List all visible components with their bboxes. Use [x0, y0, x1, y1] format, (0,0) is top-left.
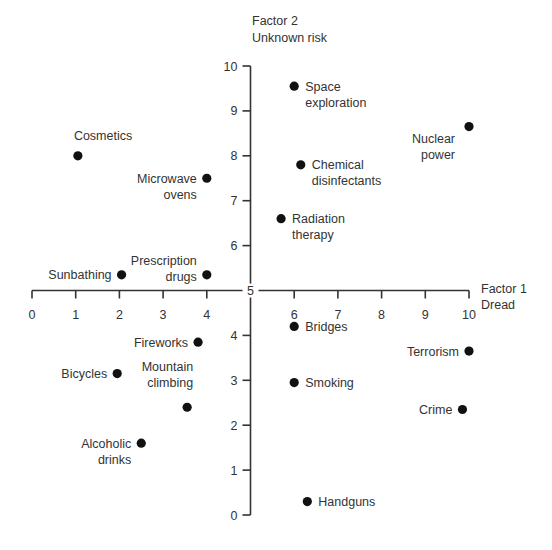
data-point: Crime: [419, 403, 467, 417]
data-point-label: Microwave: [137, 172, 197, 186]
data-point-marker: [303, 497, 312, 506]
data-point: Prescriptiondrugs: [131, 254, 212, 284]
data-point-label: Smoking: [305, 376, 354, 390]
data-point: Fireworks: [134, 336, 203, 350]
data-point-marker: [464, 122, 473, 131]
data-point-label: climbing: [147, 376, 193, 390]
data-point-label: Sunbathing: [48, 268, 111, 282]
data-point-label: drinks: [98, 453, 131, 467]
data-point-label: therapy: [292, 228, 334, 242]
data-point-label: ovens: [163, 188, 196, 202]
data-point: Sunbathing: [48, 268, 126, 282]
data-point-marker: [464, 347, 473, 356]
risk-perception-scatter-chart: 5 01234678910 01234678910 Factor 2 Unkno…: [0, 0, 552, 550]
data-point: Smoking: [290, 376, 354, 390]
x-tick-label: 6: [291, 308, 298, 322]
data-point-label: Terrorism: [407, 345, 459, 359]
data-point: Cosmetics: [73, 129, 132, 161]
data-point-label: Alcoholic: [81, 437, 131, 451]
data-point-marker: [458, 405, 467, 414]
y-tick-label: 1: [231, 464, 238, 478]
x-tick-label: 4: [203, 308, 210, 322]
data-point-label: drugs: [166, 270, 197, 284]
x-axis-title-line-2: Dread: [481, 298, 515, 312]
data-point-label: Nuclear: [412, 132, 455, 146]
data-point-marker: [296, 160, 305, 169]
x-axis-title-line-1: Factor 1: [481, 282, 527, 296]
x-tick-label: 10: [462, 308, 476, 322]
x-tick-label: 3: [160, 308, 167, 322]
data-point: Handguns: [303, 495, 376, 509]
data-point-label: Chemical: [312, 158, 364, 172]
x-tick-label: 9: [422, 308, 429, 322]
y-tick-label: 7: [231, 194, 238, 208]
axis-center-label: 5: [247, 284, 254, 298]
data-point-label: Bridges: [305, 320, 347, 334]
data-point: Spaceexploration: [290, 80, 367, 110]
y-tick-label: 0: [231, 509, 238, 523]
data-point-label: Bicycles: [61, 367, 107, 381]
data-point-label: Mountain: [142, 360, 193, 374]
data-point-marker: [193, 338, 202, 347]
axis-titles: Factor 2 Unknown risk Factor 1 Dread: [252, 14, 527, 312]
data-point-marker: [73, 151, 82, 160]
y-tick-label: 10: [224, 60, 238, 74]
data-point-marker: [117, 270, 126, 279]
y-tick-label: 3: [231, 374, 238, 388]
data-point-marker: [276, 214, 285, 223]
y-tick-label: 9: [231, 104, 238, 118]
data-point-marker: [137, 439, 146, 448]
data-point-label: Fireworks: [134, 336, 188, 350]
data-point-label: disinfectants: [312, 174, 381, 188]
data-point: Alcoholicdrinks: [81, 437, 146, 467]
data-point: Microwaveovens: [137, 172, 211, 202]
y-tick-label: 6: [231, 239, 238, 253]
y-tick-label: 4: [231, 329, 238, 343]
data-point-marker: [202, 174, 211, 183]
data-point: Nuclearpower: [412, 122, 474, 162]
data-point-marker: [202, 270, 211, 279]
data-points: SpaceexplorationNuclearpowerCosmeticsChe…: [48, 80, 473, 509]
data-point-label: Handguns: [318, 495, 375, 509]
data-point-label: Prescription: [131, 254, 197, 268]
data-point-label: Cosmetics: [74, 129, 132, 143]
data-point-marker: [290, 378, 299, 387]
data-point-label: Radiation: [292, 212, 345, 226]
data-point-label: exploration: [305, 96, 366, 110]
y-tick-label: 8: [231, 149, 238, 163]
data-point: Radiationtherapy: [276, 212, 344, 242]
x-tick-label: 1: [72, 308, 79, 322]
data-point-marker: [290, 82, 299, 91]
y-tick-label: 2: [231, 419, 238, 433]
data-point: Chemicaldisinfectants: [296, 158, 381, 188]
data-point: Terrorism: [407, 345, 474, 359]
data-point: Bicycles: [61, 367, 121, 381]
data-point-marker: [113, 369, 122, 378]
x-tick-label: 8: [378, 308, 385, 322]
data-point-marker: [183, 403, 192, 412]
x-tick-label: 2: [116, 308, 123, 322]
x-tick-label: 0: [29, 308, 36, 322]
data-point-marker: [290, 322, 299, 331]
data-point-label: Crime: [419, 403, 452, 417]
data-point: Bridges: [290, 320, 348, 334]
y-axis-title-line-2: Unknown risk: [252, 31, 328, 45]
data-point: Mountainclimbing: [142, 360, 193, 412]
data-point-label: Space: [305, 80, 340, 94]
data-point-label: power: [421, 148, 455, 162]
y-axis-title-line-1: Factor 2: [252, 14, 298, 28]
